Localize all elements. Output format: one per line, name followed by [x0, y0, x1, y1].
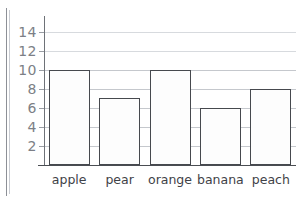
x-axis-label-orange: orange	[148, 172, 192, 187]
chart-page: 2468101214 applepearorangebananapeach	[0, 0, 307, 204]
y-axis-tick-label: 8	[28, 81, 37, 97]
bar-banana	[200, 108, 241, 165]
x-axis-line	[38, 165, 296, 166]
bar-chart-plot-area: 2468101214 applepearorangebananapeach	[44, 22, 296, 165]
page-edge-rule-inner	[9, 10, 10, 194]
y-axis-tick-label: 14	[18, 24, 37, 40]
gridline-14	[44, 32, 296, 33]
y-axis-tick-label: 2	[28, 138, 37, 154]
bar-pear	[99, 98, 140, 165]
y-axis-tick-label: 10	[18, 62, 37, 78]
x-axis-label-pear: pear	[105, 172, 133, 187]
y-axis-line	[44, 16, 45, 165]
y-axis-tick-label: 6	[28, 100, 37, 116]
y-axis-tick-label: 12	[18, 43, 37, 59]
x-axis-label-peach: peach	[252, 172, 290, 187]
y-axis-tick-label: 4	[28, 119, 37, 135]
bar-apple	[49, 70, 90, 165]
x-axis-label-apple: apple	[52, 172, 87, 187]
bar-orange	[150, 70, 191, 165]
page-edge-rule	[6, 8, 7, 196]
bar-peach	[250, 89, 291, 165]
x-axis-label-banana: banana	[197, 172, 244, 187]
gridline-12	[44, 51, 296, 52]
